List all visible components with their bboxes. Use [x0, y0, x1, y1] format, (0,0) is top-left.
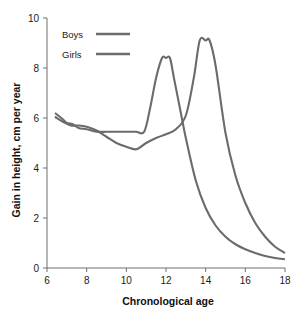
x-tick-label-10: 10: [121, 275, 133, 286]
y-axis-ticks: [43, 18, 47, 268]
legend-label-boys: Boys: [62, 29, 83, 40]
y-tick-label-8: 8: [33, 63, 39, 74]
chart-legend: BoysGirls: [62, 29, 130, 60]
series-line-boys: [55, 38, 285, 253]
y-tick-label-0: 0: [33, 263, 39, 274]
y-tick-label-10: 10: [28, 13, 40, 24]
data-series-group: [55, 38, 285, 260]
x-tick-label-12: 12: [160, 275, 172, 286]
chart-canvas: 681012141618 0246810 BoysGirls Chronolog…: [0, 0, 298, 319]
y-tick-label-6: 6: [33, 113, 39, 124]
y-axis-tick-labels: 0246810: [28, 13, 40, 274]
x-tick-label-16: 16: [240, 275, 252, 286]
growth-velocity-chart: 681012141618 0246810 BoysGirls Chronolog…: [0, 0, 298, 319]
y-tick-label-4: 4: [33, 163, 39, 174]
series-line-girls: [55, 57, 285, 260]
x-tick-label-18: 18: [279, 275, 291, 286]
y-tick-label-2: 2: [33, 213, 39, 224]
y-axis-title: Gain in height, cm per year: [10, 83, 22, 218]
x-axis-tick-labels: 681012141618: [44, 275, 291, 286]
x-axis-title: Chronological age: [122, 295, 214, 307]
x-tick-label-8: 8: [84, 275, 90, 286]
legend-label-girls: Girls: [62, 49, 82, 60]
x-tick-label-6: 6: [44, 275, 50, 286]
x-axis-ticks: [47, 268, 285, 272]
x-tick-label-14: 14: [200, 275, 212, 286]
